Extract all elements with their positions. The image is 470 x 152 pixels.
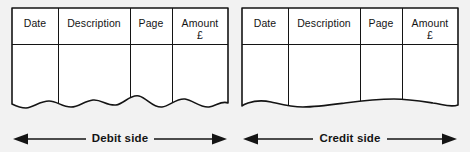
debit-side-label: Debit side [12,126,228,152]
credit-side-sheet [242,8,458,110]
side-labels: Debit side Credit side [0,126,470,152]
debit-side-sheet [12,8,228,110]
debit-side-label-text: Debit side [86,132,154,144]
credit-side-label-text: Credit side [313,132,386,144]
credit-side-label: Credit side [242,126,458,152]
ledger-figure: Date Description Page Amount £ Date Desc… [0,0,470,152]
